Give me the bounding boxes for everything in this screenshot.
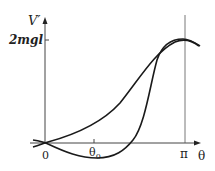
x-axis-arrow-icon: [194, 141, 201, 146]
y-axis-arrow-icon: [43, 17, 48, 24]
x-tick-label-theta0: θ0: [89, 146, 101, 161]
lower-curve: [33, 39, 200, 158]
y-tick-label-2mgl: 2mgl: [8, 33, 43, 47]
upper-curve: [33, 40, 199, 147]
potential-diagram: V′ 2mgl 0 θ0 π θ: [0, 0, 215, 171]
x-axis-label: θ: [198, 149, 205, 163]
x-tick-label-pi: π: [180, 147, 188, 161]
x-tick-label-origin: 0: [42, 149, 49, 162]
y-axis-label: V′: [28, 13, 40, 28]
